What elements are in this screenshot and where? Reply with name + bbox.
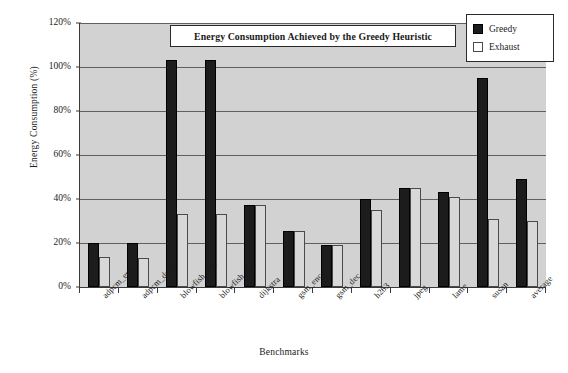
y-tick-label: 80% (54, 106, 71, 116)
bar-greedy (283, 231, 294, 287)
chart-title: Energy Consumption Achieved by the Greed… (170, 25, 456, 47)
bar-greedy (477, 78, 488, 287)
bar-greedy (360, 199, 371, 287)
y-tick-label: 120% (49, 18, 71, 28)
legend-item-greedy: Greedy (473, 24, 547, 34)
bar-greedy (321, 245, 332, 287)
bar-group (80, 23, 119, 287)
bar-exhaust (216, 214, 227, 287)
bar-greedy (399, 188, 410, 287)
bar-group (274, 23, 313, 287)
bar-group (352, 23, 391, 287)
bar-group (235, 23, 274, 287)
bar-group (468, 23, 507, 287)
bar-group (313, 23, 352, 287)
bar-group (429, 23, 468, 287)
y-tick-label: 100% (49, 62, 71, 72)
legend-item-exhaust: Exhaust (473, 42, 547, 52)
bar-greedy (438, 192, 449, 287)
bar-exhaust (255, 205, 266, 288)
bar-exhaust (371, 210, 382, 287)
bar-exhaust (410, 188, 421, 287)
bar-exhaust (527, 221, 538, 287)
bar-group (158, 23, 197, 287)
y-tick-label: 40% (54, 194, 71, 204)
bar-group (507, 23, 546, 287)
y-axis-ticks: 120%100%80%60%40%20%0% (36, 0, 76, 373)
bar-exhaust (177, 214, 188, 287)
plot-area (79, 23, 546, 288)
bar-greedy (88, 243, 99, 287)
bar-greedy (205, 60, 216, 287)
filled-square-icon (473, 24, 483, 34)
y-tick-label: 0% (58, 282, 71, 292)
y-tick-label: 20% (54, 238, 71, 248)
bar-group (119, 23, 158, 287)
bar-greedy (166, 60, 177, 287)
chart-figure: Energy Consumption (%) 120%100%80%60%40%… (0, 0, 568, 373)
bar-group (391, 23, 430, 287)
bar-groups (80, 23, 546, 287)
bar-greedy (516, 179, 527, 287)
bar-group (196, 23, 235, 287)
y-tick-label: 60% (54, 150, 71, 160)
x-axis-title: Benchmarks (0, 347, 568, 357)
legend-label-greedy: Greedy (489, 24, 517, 34)
bar-exhaust (294, 231, 305, 287)
open-square-icon (473, 42, 483, 52)
legend-label-exhaust: Exhaust (489, 42, 520, 52)
chart-legend: Greedy Exhaust (466, 14, 554, 62)
bar-exhaust (332, 245, 343, 287)
bar-exhaust (449, 197, 460, 287)
bar-exhaust (488, 219, 499, 287)
